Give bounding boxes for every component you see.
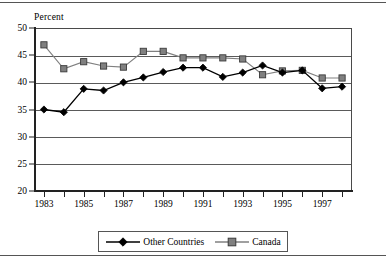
x-tick-label: 1989 [154, 199, 173, 209]
data-point-marker [120, 79, 127, 86]
x-tick-label: 1993 [233, 199, 252, 209]
y-axis-title: Percent [34, 12, 64, 22]
legend-label: Canada [252, 237, 281, 247]
x-tick-mark [104, 192, 105, 197]
x-tick-mark [143, 192, 144, 197]
x-tick-mark [44, 192, 45, 197]
square-marker-icon [214, 236, 250, 248]
x-tick-label: 1995 [273, 199, 292, 209]
x-tick-label: 1987 [114, 199, 133, 209]
data-point-marker [220, 55, 226, 61]
data-point-marker [200, 55, 206, 61]
data-point-marker [179, 64, 186, 71]
data-point-marker [40, 106, 47, 113]
data-point-marker [41, 42, 47, 48]
x-tick-mark [163, 192, 164, 197]
legend-label: Other Countries [143, 237, 204, 247]
x-tick-mark [322, 192, 323, 197]
x-tick-label: 1985 [74, 199, 93, 209]
y-tick-label: 25 [5, 159, 27, 169]
data-point-marker [219, 73, 226, 80]
data-point-marker [339, 75, 345, 81]
series-line-other-countries [44, 65, 342, 112]
data-point-marker [100, 63, 106, 69]
data-point-marker [180, 55, 186, 61]
x-tick-mark [123, 192, 124, 197]
data-point-marker [140, 74, 147, 81]
x-tick-mark [203, 192, 204, 197]
diamond-marker-icon [105, 236, 141, 248]
x-tick-mark [84, 192, 85, 197]
data-point-marker [240, 56, 246, 62]
data-point-marker [160, 68, 167, 75]
data-point-marker [199, 64, 206, 71]
data-point-marker [120, 64, 126, 70]
y-tick-label: 50 [5, 23, 27, 33]
data-point-marker [259, 62, 266, 69]
x-tick-mark [223, 192, 224, 197]
x-tick-mark [243, 192, 244, 197]
series-plot [34, 28, 352, 191]
x-tick-mark [183, 192, 184, 197]
legend-entry: Canada [214, 236, 281, 248]
y-tick-label: 20 [5, 186, 27, 196]
y-tick-label: 45 [5, 50, 27, 60]
bottom-rule [0, 255, 386, 256]
y-tick-label: 40 [5, 77, 27, 87]
data-point-marker [239, 69, 246, 76]
y-tick-label: 35 [5, 105, 27, 115]
data-point-marker [81, 59, 87, 65]
x-tick-mark [64, 192, 65, 197]
x-tick-label: 1983 [34, 199, 53, 209]
data-point-marker [319, 75, 325, 81]
legend-entry: Other Countries [105, 236, 204, 248]
x-tick-mark [342, 192, 343, 197]
x-tick-mark [263, 192, 264, 197]
x-tick-label: 1997 [313, 199, 332, 209]
x-tick-mark [302, 192, 303, 197]
chart-legend: Other CountriesCanada [98, 231, 288, 252]
y-tick-label: 30 [5, 132, 27, 142]
x-tick-label: 1991 [193, 199, 212, 209]
data-point-marker [61, 66, 67, 72]
x-tick-mark [282, 192, 283, 197]
data-point-marker [259, 72, 265, 78]
data-point-marker [160, 48, 166, 54]
data-point-marker [140, 48, 146, 54]
data-point-marker [338, 83, 345, 90]
line-chart-figure: Percent 20253035404550 19831985198719891… [0, 3, 386, 253]
data-point-marker [100, 87, 107, 94]
series-line-canada [44, 45, 342, 78]
